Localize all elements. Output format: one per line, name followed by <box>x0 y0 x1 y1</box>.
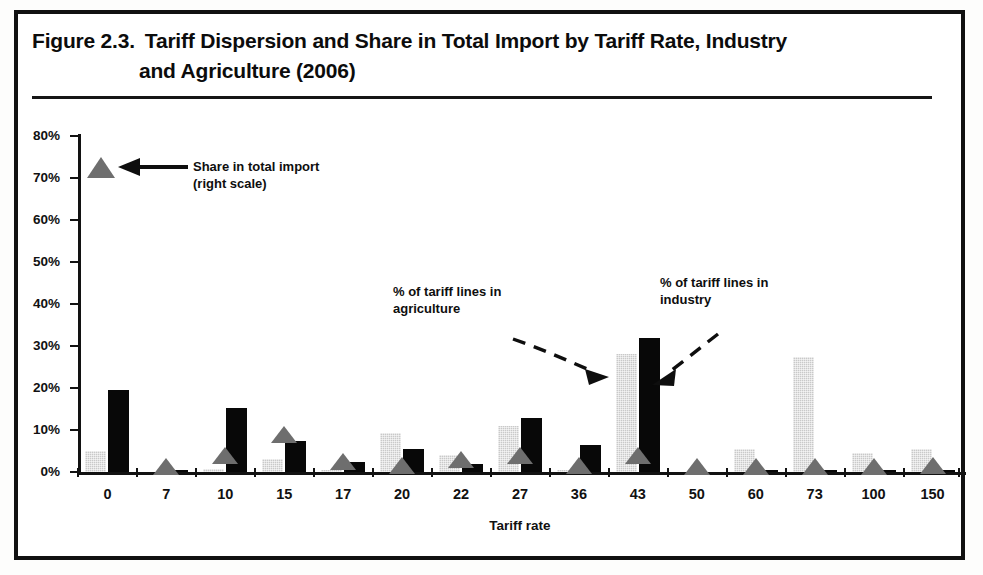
x-axis-tick-label: 17 <box>320 486 366 502</box>
y-axis-tick <box>70 261 79 263</box>
agriculture-annotation-line2: agriculture <box>393 300 501 317</box>
x-axis-tick-label: 22 <box>438 486 484 502</box>
x-axis-tick-label: 100 <box>851 486 897 502</box>
x-axis-tick <box>785 468 787 477</box>
y-axis-label: 10% <box>16 422 60 437</box>
y-axis-tick <box>70 135 79 137</box>
x-axis-tick <box>549 468 551 477</box>
x-axis-tick-label: 50 <box>674 486 720 502</box>
x-axis-tick-label: 10 <box>202 486 248 502</box>
x-axis-tick <box>77 468 79 477</box>
share-marker-triangle[interactable] <box>802 458 828 475</box>
industry-annotation: % of tariff lines in industry <box>660 274 768 308</box>
share-marker-triangle[interactable] <box>389 457 415 474</box>
x-axis-tick <box>958 468 960 477</box>
x-axis-tick-label: 27 <box>497 486 543 502</box>
bar-agriculture[interactable] <box>262 459 283 472</box>
x-axis-tick <box>372 468 374 477</box>
x-axis-tick <box>431 468 433 477</box>
share-marker-triangle[interactable] <box>212 447 238 464</box>
share-marker-triangle[interactable] <box>920 457 946 474</box>
bar-industry[interactable] <box>108 390 129 472</box>
bar-industry[interactable] <box>285 441 306 473</box>
share-marker-triangle[interactable] <box>330 453 356 470</box>
x-axis-tick <box>490 468 492 477</box>
bar-industry[interactable] <box>521 418 542 472</box>
y-axis-tick <box>70 303 79 305</box>
legend-label: Share in total import (right scale) <box>193 158 319 192</box>
y-axis-label: 0% <box>16 464 60 479</box>
y-axis-tick <box>70 345 79 347</box>
y-axis-label: 50% <box>16 254 60 269</box>
x-axis-tick-label: 20 <box>379 486 425 502</box>
x-axis-tick-label: 7 <box>143 486 189 502</box>
bar-agriculture[interactable] <box>203 469 224 472</box>
y-axis-label: 70% <box>16 170 60 185</box>
share-marker-triangle[interactable] <box>153 458 179 475</box>
legend-label-line1: Share in total import <box>193 158 319 175</box>
share-marker-triangle[interactable] <box>507 447 533 464</box>
x-axis-tick-label: 73 <box>792 486 838 502</box>
x-axis-tick <box>726 468 728 477</box>
share-marker-triangle[interactable] <box>566 457 592 474</box>
y-axis-label: 20% <box>16 380 60 395</box>
figure-container: Figure 2.3.Tariff Dispersion and Share i… <box>0 0 983 575</box>
y-axis-tick <box>70 387 79 389</box>
y-axis-label: 30% <box>16 338 60 353</box>
x-axis-line <box>78 472 966 475</box>
share-marker-triangle[interactable] <box>684 458 710 475</box>
bar-agriculture[interactable] <box>321 470 342 472</box>
y-axis-tick <box>70 177 79 179</box>
legend-triangle-icon <box>87 157 115 178</box>
x-axis-tick-label: 36 <box>556 486 602 502</box>
share-marker-triangle[interactable] <box>861 458 887 475</box>
x-axis-tick-label: 0 <box>84 486 130 502</box>
industry-annotation-line2: industry <box>660 291 768 308</box>
x-axis-tick-label: 60 <box>733 486 779 502</box>
x-axis-tick-label: 150 <box>910 486 956 502</box>
y-axis-label: 80% <box>16 128 60 143</box>
agriculture-annotation: % of tariff lines in agriculture <box>393 283 501 317</box>
x-axis-tick <box>667 468 669 477</box>
industry-annotation-line1: % of tariff lines in <box>660 274 768 291</box>
agriculture-annotation-line1: % of tariff lines in <box>393 283 501 300</box>
x-axis-tick-label: 15 <box>261 486 307 502</box>
share-marker-triangle[interactable] <box>271 426 297 443</box>
x-axis-tick <box>313 468 315 477</box>
x-axis-tick <box>195 468 197 477</box>
bar-agriculture[interactable] <box>793 357 814 473</box>
x-axis-title: Tariff rate <box>78 518 962 533</box>
share-marker-triangle[interactable] <box>743 458 769 475</box>
x-axis-tick <box>254 468 256 477</box>
share-marker-triangle[interactable] <box>448 451 474 468</box>
legend-label-line2: (right scale) <box>193 175 319 192</box>
share-marker-triangle[interactable] <box>625 447 651 464</box>
x-axis-tick <box>608 468 610 477</box>
y-axis-label: 40% <box>16 296 60 311</box>
bar-agriculture[interactable] <box>85 451 106 472</box>
x-axis-tick <box>844 468 846 477</box>
x-axis-tick <box>903 468 905 477</box>
x-axis-tick-label: 43 <box>615 486 661 502</box>
y-axis-label: 60% <box>16 212 60 227</box>
y-axis-tick <box>70 219 79 221</box>
x-axis-tick <box>136 468 138 477</box>
y-axis-tick <box>70 429 79 431</box>
